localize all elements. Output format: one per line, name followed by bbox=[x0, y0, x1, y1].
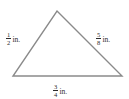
bottom-side-length-label: 3 4 in. bbox=[53, 84, 67, 99]
bottom-side-denominator: 4 bbox=[53, 91, 57, 98]
left-side-denominator: 2 bbox=[6, 39, 10, 46]
bottom-side-numerator: 3 bbox=[53, 84, 57, 91]
right-side-unit: in. bbox=[103, 36, 111, 44]
triangle-figure: 1 2 in. 5 8 in. 3 4 in. bbox=[0, 0, 129, 99]
right-side-numerator: 5 bbox=[96, 32, 100, 39]
left-side-unit: in. bbox=[13, 36, 21, 44]
left-side-fraction: 1 2 bbox=[6, 32, 11, 47]
right-side-length-label: 5 8 in. bbox=[96, 32, 110, 47]
bottom-side-unit: in. bbox=[60, 88, 68, 96]
left-side-numerator: 1 bbox=[6, 32, 10, 39]
right-side-denominator: 8 bbox=[96, 39, 100, 46]
bottom-side-fraction: 3 4 bbox=[53, 84, 58, 99]
left-side-length-label: 1 2 in. bbox=[6, 32, 20, 47]
right-side-fraction: 5 8 bbox=[96, 32, 101, 47]
